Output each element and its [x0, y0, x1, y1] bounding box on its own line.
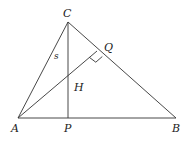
label-b: B — [171, 122, 180, 135]
right-angle-marker — [89, 57, 102, 63]
label-c: C — [63, 7, 72, 20]
label-side-s: s — [54, 51, 59, 61]
side-bc — [68, 22, 176, 118]
label-h: H — [73, 81, 84, 94]
label-p: P — [63, 122, 72, 135]
side-ca — [18, 22, 68, 118]
altitude-aq — [18, 51, 97, 118]
triangle-diagram: C Q H A P B s — [0, 0, 192, 142]
label-q: Q — [104, 41, 113, 54]
label-a: A — [10, 122, 19, 135]
